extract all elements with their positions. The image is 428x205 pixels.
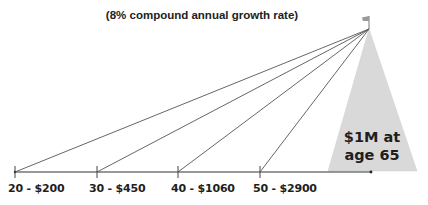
milestone-label-40: 40 - $1060	[171, 182, 235, 195]
growth-diagram: (8% compound annual growth rate) $1M at …	[0, 0, 428, 205]
growth-line-20	[15, 29, 369, 172]
goal-label: $1M at age 65	[334, 128, 410, 164]
diagram-title: (8% compound annual growth rate)	[100, 9, 304, 21]
diagram-graphic	[0, 0, 428, 205]
goal-label-line2: age 65	[334, 146, 410, 164]
growth-line-30	[97, 29, 369, 172]
milestone-label-50: 50 - $2900	[253, 182, 317, 195]
flag-icon	[362, 16, 369, 29]
timeline-end-dot	[370, 171, 373, 174]
milestone-label-20: 20 - $200	[8, 182, 64, 195]
goal-label-line1: $1M at	[334, 128, 410, 146]
milestone-label-30: 30 - $450	[89, 182, 145, 195]
